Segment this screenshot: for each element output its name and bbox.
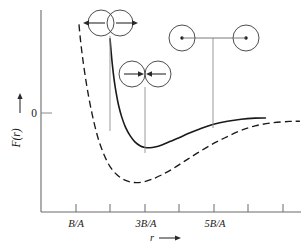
figure-svg: F(r) 0 B/A 3B/A 5B/A r <box>0 0 308 245</box>
y-axis-label: F(r) <box>10 128 23 148</box>
figure-background <box>0 0 308 245</box>
potential-energy-figure: F(r) 0 B/A 3B/A 5B/A r <box>0 0 308 245</box>
x-tick-label-3b-over-a: 3B/A <box>135 218 158 229</box>
x-tick-label-5b-over-a: 5B/A <box>205 218 227 229</box>
x-tick-label-b-over-a: B/A <box>68 218 84 229</box>
y-axis-zero-label: 0 <box>31 107 37 119</box>
